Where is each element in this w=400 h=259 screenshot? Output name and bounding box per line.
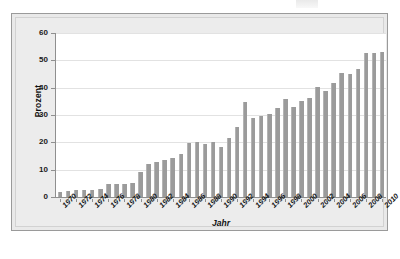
bar bbox=[227, 138, 232, 197]
bar bbox=[219, 147, 224, 197]
y-tick-label: 40 bbox=[16, 84, 48, 92]
chart-frame: Prozent 0102030405060 197019721974197619… bbox=[11, 13, 388, 231]
x-tick-mark bbox=[116, 199, 117, 202]
y-tick-mark bbox=[51, 197, 55, 198]
bar bbox=[315, 87, 320, 197]
y-tick-mark bbox=[51, 33, 55, 34]
y-tick-label: 50 bbox=[16, 56, 48, 64]
y-tick-mark bbox=[51, 60, 55, 61]
x-tick-mark bbox=[261, 199, 262, 202]
bar bbox=[275, 108, 280, 197]
bar bbox=[170, 158, 175, 197]
bar bbox=[235, 127, 240, 197]
bar bbox=[331, 83, 336, 197]
y-tick-mark bbox=[51, 115, 55, 116]
bar bbox=[283, 99, 288, 197]
x-tick-mark bbox=[84, 199, 85, 202]
bar bbox=[203, 144, 208, 197]
y-tick-mark bbox=[51, 88, 55, 89]
x-tick-mark bbox=[149, 199, 150, 202]
y-tick-label: 60 bbox=[16, 29, 48, 37]
bar bbox=[291, 107, 296, 197]
bar bbox=[195, 142, 200, 197]
bar bbox=[299, 101, 304, 197]
y-tick-mark bbox=[51, 142, 55, 143]
bar bbox=[187, 143, 192, 197]
y-tick-label: 0 bbox=[16, 193, 48, 201]
bar bbox=[348, 74, 353, 197]
x-axis-title: Jahr bbox=[56, 218, 386, 228]
y-axis-title: Prozent bbox=[33, 71, 43, 131]
clipped-title-artifact bbox=[296, 0, 318, 8]
bar bbox=[58, 192, 63, 197]
x-tick-mark bbox=[326, 199, 327, 202]
x-tick-mark bbox=[358, 199, 359, 202]
y-tick-label: 20 bbox=[16, 138, 48, 146]
x-tick-mark bbox=[165, 199, 166, 202]
bar bbox=[267, 114, 272, 197]
bar bbox=[162, 160, 167, 197]
bar bbox=[339, 73, 344, 197]
x-tick-mark bbox=[181, 199, 182, 202]
y-tick-mark bbox=[51, 170, 55, 171]
bar bbox=[154, 162, 159, 197]
x-tick-mark bbox=[213, 199, 214, 202]
x-tick-mark bbox=[310, 199, 311, 202]
bar bbox=[211, 142, 216, 197]
bar bbox=[179, 154, 184, 197]
bar bbox=[356, 69, 361, 197]
x-tick-mark bbox=[374, 199, 375, 202]
x-tick-mark bbox=[132, 199, 133, 202]
x-tick-mark bbox=[100, 199, 101, 202]
bar bbox=[380, 52, 385, 197]
chart-inner-border: Prozent 0102030405060 197019721974197619… bbox=[15, 17, 384, 227]
y-tick-label: 30 bbox=[16, 111, 48, 119]
bar bbox=[251, 118, 256, 197]
y-tick-label: 10 bbox=[16, 166, 48, 174]
bar-series bbox=[56, 33, 386, 197]
x-tick-mark bbox=[229, 199, 230, 202]
bar bbox=[372, 53, 377, 197]
bar bbox=[259, 116, 264, 197]
x-tick-mark bbox=[245, 199, 246, 202]
bar bbox=[364, 53, 369, 197]
bar bbox=[323, 91, 328, 197]
x-tick-mark bbox=[277, 199, 278, 202]
x-tick-mark bbox=[342, 199, 343, 202]
x-tick-mark bbox=[293, 199, 294, 202]
x-tick-mark bbox=[68, 199, 69, 202]
x-tick-mark bbox=[197, 199, 198, 202]
bar bbox=[307, 98, 312, 197]
bar bbox=[146, 164, 151, 197]
bar bbox=[243, 102, 248, 197]
